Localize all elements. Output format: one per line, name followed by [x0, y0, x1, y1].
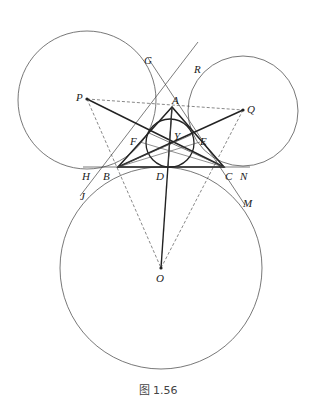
label-o: O [156, 272, 164, 284]
label-m: M [242, 197, 253, 209]
line-c-f [149, 133, 224, 167]
label-d: D [155, 170, 164, 182]
label-e: E [199, 135, 207, 147]
label-p: P [75, 91, 83, 103]
point-y [169, 142, 172, 145]
label-q: Q [247, 103, 255, 115]
label-h: H [81, 170, 91, 182]
figure-caption: 图 1.56 [139, 384, 178, 397]
label-g: G [144, 54, 152, 66]
point-q [241, 108, 244, 111]
point-p [85, 97, 88, 100]
label-y: Y [174, 130, 182, 142]
label-r: R [193, 63, 201, 75]
label-f: F [129, 135, 137, 147]
dash-p-q [87, 99, 243, 110]
label-a: A [171, 94, 179, 106]
label-j: J [80, 190, 86, 202]
label-b: B [103, 170, 110, 182]
line-a-d [168, 107, 172, 167]
line-r-b [80, 42, 198, 196]
point-o [159, 266, 162, 269]
geometry-figure: G R A P Q Y F E H B D C N J M O 图 1.56 [0, 0, 316, 411]
label-c: C [225, 170, 233, 182]
dash-p-o [87, 99, 161, 268]
label-n: N [239, 170, 248, 182]
